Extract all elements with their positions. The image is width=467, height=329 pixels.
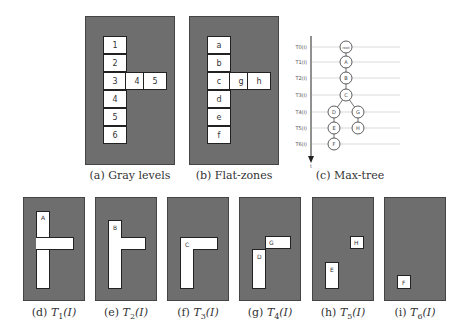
node-A: A bbox=[344, 59, 348, 65]
label-B: B bbox=[113, 224, 117, 231]
level-label-2: T2(I) bbox=[294, 75, 307, 81]
caption-c: (c) Max-tree bbox=[305, 169, 395, 182]
caption-e: (e) T2(I) bbox=[95, 306, 157, 321]
node-F: F bbox=[333, 141, 336, 147]
cell-gray-6: 6 bbox=[103, 126, 127, 144]
cell-gray-2: 2 bbox=[103, 54, 127, 72]
label-E: E bbox=[330, 266, 334, 273]
level-label-6: T6(I) bbox=[294, 141, 307, 147]
cell-flat-d: d bbox=[207, 90, 231, 108]
cell-flat-e: e bbox=[207, 108, 231, 126]
panel-t3: C bbox=[167, 197, 229, 301]
level-label-1: T1(I) bbox=[294, 59, 307, 65]
panel-t6: F bbox=[384, 197, 446, 301]
node-root: root bbox=[342, 46, 350, 50]
cell-gray-3: 3 bbox=[103, 72, 127, 90]
level-label-4: T4(I) bbox=[294, 109, 307, 115]
panel-t1: A bbox=[23, 197, 85, 301]
node-D: D bbox=[332, 109, 336, 115]
level-label-5: T5(I) bbox=[294, 125, 307, 131]
caption-h: (h) T5(I) bbox=[312, 306, 374, 321]
level-label-3: T3(I) bbox=[294, 92, 307, 98]
caption-g: (g) T4(I) bbox=[239, 306, 301, 321]
node-B: B bbox=[344, 75, 348, 81]
node-C: C bbox=[344, 92, 348, 98]
caption-d: (d) T1(I) bbox=[23, 306, 85, 321]
node-H: H bbox=[356, 125, 360, 131]
cell-gray-5: 5 bbox=[103, 108, 127, 126]
caption-a: (a) Gray levels bbox=[85, 169, 175, 182]
region-A-joint bbox=[37, 238, 50, 249]
cell-flat-h: h bbox=[247, 72, 271, 90]
panel-flat-zones: a b c d e f g h bbox=[189, 16, 279, 165]
panel-t5: E H bbox=[312, 197, 374, 301]
label-G: G bbox=[269, 239, 274, 246]
region-A-vertical bbox=[36, 211, 50, 289]
axis-arrow-icon bbox=[308, 156, 314, 163]
label-C: C bbox=[185, 241, 189, 248]
cell-flat-b: b bbox=[207, 54, 231, 72]
level-label-0: T0(I) bbox=[294, 44, 307, 50]
caption-i: (i) T6(I) bbox=[384, 306, 446, 321]
cell-gray-branch-5: 5 bbox=[143, 72, 167, 90]
node-G: G bbox=[356, 109, 360, 115]
label-H: H bbox=[354, 239, 359, 246]
cell-flat-f: f bbox=[207, 126, 231, 144]
panel-t2: B bbox=[95, 197, 157, 301]
label-F: F bbox=[402, 279, 405, 286]
panel-t4: D G bbox=[239, 197, 301, 301]
caption-b: (b) Flat-zones bbox=[189, 169, 279, 182]
node-E: E bbox=[332, 125, 335, 131]
cell-flat-c: c bbox=[207, 72, 231, 90]
region-B-horizontal bbox=[121, 237, 146, 250]
cell-flat-a: a bbox=[207, 36, 231, 54]
panel-gray-levels: 1 2 3 4 5 6 4 5 bbox=[85, 16, 175, 165]
label-D: D bbox=[257, 253, 262, 260]
caption-f: (f) T3(I) bbox=[167, 306, 229, 321]
cell-gray-1: 1 bbox=[103, 36, 127, 54]
label-A: A bbox=[41, 214, 45, 221]
max-tree-diagram: T0(I) T1(I) T2(I) T3(I) T4(I) T5(I) T6(I… bbox=[288, 10, 408, 170]
cell-gray-4: 4 bbox=[103, 90, 127, 108]
